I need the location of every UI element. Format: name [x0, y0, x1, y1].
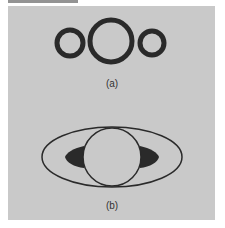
ring-center [90, 20, 132, 62]
planet-body [83, 128, 141, 186]
label-a: (a) [106, 78, 118, 89]
shadow-left [65, 146, 84, 168]
panel-a-rings [57, 20, 164, 62]
shadow-right [140, 146, 159, 168]
panel-b-planet [42, 127, 182, 187]
ring-left [57, 30, 83, 56]
ring-right [140, 31, 164, 55]
label-b: (b) [106, 200, 118, 211]
figure-canvas [0, 0, 225, 228]
